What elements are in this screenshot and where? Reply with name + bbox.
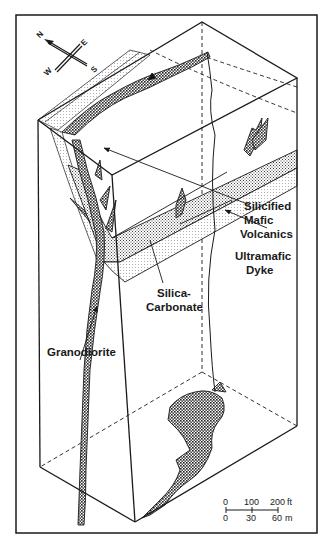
rock-layers — [38, 50, 297, 282]
scale-ft-0: 0 — [223, 497, 228, 507]
geologic-block-diagram: N E S W — [0, 0, 333, 551]
label-ultramafic-dyke: Ultramafic Dyke — [235, 250, 292, 276]
svg-text:Ultramafic: Ultramafic — [235, 250, 292, 262]
svg-text:Mafic: Mafic — [244, 214, 274, 226]
label-silicified-mafic-volcanics: Silicified Mafic Volcanics — [240, 200, 293, 240]
scale-ft-200: 200 — [270, 497, 285, 507]
svg-text:Dyke: Dyke — [246, 264, 274, 276]
svg-text:Carbonate: Carbonate — [146, 301, 203, 313]
scale-m-30: 30 — [246, 513, 256, 523]
compass-e: E — [79, 37, 90, 48]
compass-rose-icon: N E S W — [35, 29, 100, 77]
compass-s: S — [89, 64, 100, 75]
compass-n: N — [35, 29, 46, 40]
label-silica-carbonate: Silica- Carbonate — [146, 287, 203, 313]
scale-m-unit: m — [285, 513, 293, 523]
scale-m-0: 0 — [223, 513, 228, 523]
svg-text:Volcanics: Volcanics — [240, 228, 293, 240]
svg-text:Silica-: Silica- — [157, 287, 191, 299]
svg-text:Silicified: Silicified — [244, 200, 291, 212]
compass-w: W — [42, 66, 54, 78]
scale-bar: 0 100 200 ft 0 30 60 m — [223, 497, 293, 523]
label-granodiorite: Granodiorite — [47, 346, 116, 358]
scale-ft-100: 100 — [244, 497, 259, 507]
scale-ft-unit: ft — [287, 497, 293, 507]
scale-m-60: 60 — [272, 513, 282, 523]
